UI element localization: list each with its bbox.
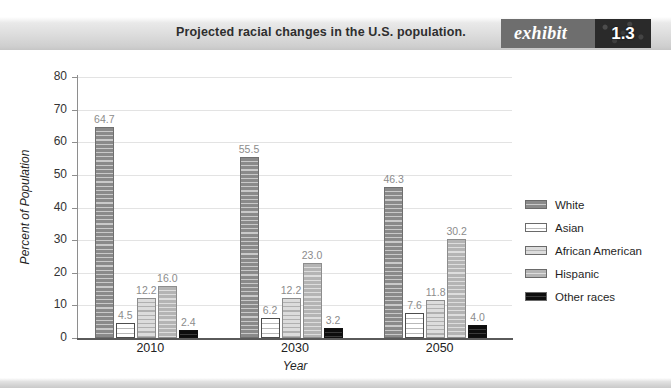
exhibit-badge: exhibit 1.3 — [501, 19, 651, 48]
gridline — [78, 208, 512, 209]
bar-african-american-2050 — [426, 300, 445, 338]
bar-hispanic-2030 — [303, 263, 322, 338]
bar-asian-2050 — [405, 313, 424, 338]
legend-swatch-icon — [525, 269, 547, 278]
legend-label: Other races — [555, 291, 615, 303]
legend-item-asian[interactable]: Asian — [525, 218, 642, 237]
bar-other-races-2050 — [468, 325, 487, 338]
y-axis-tick-label: 70 — [27, 102, 67, 116]
exhibit-number: 1.3 — [611, 24, 635, 44]
legend-label: Hispanic — [555, 268, 599, 280]
legend-label: White — [555, 199, 584, 211]
gridline — [78, 142, 512, 143]
y-axis-tick-mark — [72, 338, 77, 339]
y-axis-tick-mark — [72, 110, 77, 111]
page-title: Projected racial changes in the U.S. pop… — [176, 25, 466, 39]
footer-band — [0, 378, 671, 388]
bar-other-races-2010 — [179, 330, 198, 338]
bar-hispanic-2010 — [158, 286, 177, 338]
bar-asian-2010 — [116, 323, 135, 338]
bar-african-american-2010 — [137, 298, 156, 338]
legend-item-hispanic[interactable]: Hispanic — [525, 264, 642, 283]
bar-value-label: 30.2 — [437, 225, 477, 237]
legend-swatch-icon — [525, 200, 547, 209]
y-axis-tick-mark — [72, 273, 77, 274]
y-axis-tick-mark — [72, 240, 77, 241]
bar-value-label: 23.0 — [292, 249, 332, 261]
y-axis-tick-mark — [72, 77, 77, 78]
x-axis-title: Year — [0, 359, 590, 373]
bar-value-label: 3.2 — [313, 314, 353, 326]
gridline — [78, 175, 512, 176]
bar-white-2050 — [384, 187, 403, 338]
exhibit-number-box: 1.3 — [595, 19, 651, 48]
x-axis-line — [77, 338, 513, 340]
bar-asian-2030 — [261, 318, 280, 338]
legend-item-other-races[interactable]: Other races — [525, 287, 642, 306]
y-axis-line — [77, 75, 78, 340]
legend-item-white[interactable]: White — [525, 195, 642, 214]
bar-hispanic-2050 — [447, 239, 466, 338]
legend-label: Asian — [555, 222, 584, 234]
y-axis-tick-label: 40 — [27, 200, 67, 214]
legend-swatch-icon — [525, 292, 547, 301]
y-axis-tick-label: 0 — [27, 330, 67, 344]
y-axis-tick-label: 50 — [27, 167, 67, 181]
x-axis-tick-label-2030: 2030 — [250, 341, 340, 355]
bar-value-label: 55.5 — [229, 143, 269, 155]
y-axis-tick-label: 80 — [27, 69, 67, 83]
gridline — [78, 110, 512, 111]
x-axis-tick-label-2050: 2050 — [395, 341, 485, 355]
y-axis-tick-label: 30 — [27, 232, 67, 246]
bar-value-label: 46.3 — [374, 173, 414, 185]
y-axis-tick-mark — [72, 208, 77, 209]
chart-legend: WhiteAsianAfrican AmericanHispanicOther … — [525, 195, 642, 310]
legend-swatch-icon — [525, 246, 547, 255]
bar-african-american-2030 — [282, 298, 301, 338]
x-axis-tick-label-2010: 2010 — [105, 341, 195, 355]
exhibit-label: exhibit — [501, 23, 567, 44]
bar-value-label: 64.7 — [84, 113, 124, 125]
y-axis-tick-mark — [72, 175, 77, 176]
y-axis-tick-mark — [72, 142, 77, 143]
y-axis-tick-label: 10 — [27, 297, 67, 311]
gridline — [78, 77, 512, 78]
plot-area: 64.74.512.216.02.455.56.212.223.03.246.3… — [78, 77, 512, 338]
bar-other-races-2030 — [324, 328, 343, 338]
y-axis-tick-label: 20 — [27, 265, 67, 279]
bar-value-label: 2.4 — [168, 316, 208, 328]
y-axis-tick-mark — [72, 305, 77, 306]
legend-swatch-icon — [525, 223, 547, 232]
legend-label: African American — [555, 245, 642, 257]
bar-white-2010 — [95, 127, 114, 338]
bar-value-label: 16.0 — [147, 272, 187, 284]
y-axis-tick-label: 60 — [27, 134, 67, 148]
legend-item-african-american[interactable]: African American — [525, 241, 642, 260]
bar-value-label: 4.0 — [458, 311, 498, 323]
